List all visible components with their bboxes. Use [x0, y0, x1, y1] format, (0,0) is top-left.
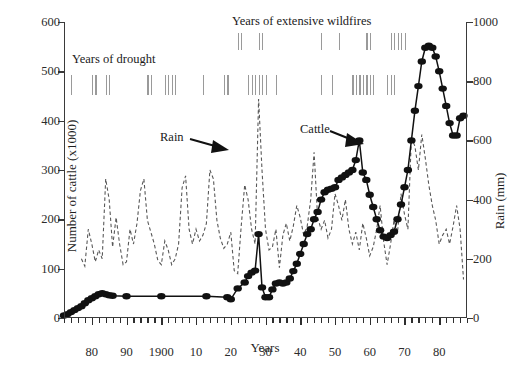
drought-year-mark [151, 75, 152, 95]
drought-year-mark [356, 75, 357, 95]
drought-year-mark [373, 75, 374, 95]
drought-year-mark [259, 75, 260, 95]
drought-year-mark [352, 75, 353, 95]
drought-year-mark [262, 75, 263, 95]
wildfire-label: Years of extensive wildfires [232, 14, 371, 29]
drought-year-mark [321, 75, 322, 95]
drought-year-mark [252, 75, 253, 95]
drought-year-mark [391, 75, 392, 95]
wildfire-year-mark [394, 33, 395, 50]
drought-year-mark [366, 75, 367, 95]
wildfire-year-mark [321, 33, 322, 50]
drought-year-mark [175, 75, 176, 95]
wildfire-year-mark [259, 33, 260, 50]
drought-year-mark [106, 75, 107, 95]
drought-year-mark [203, 75, 204, 95]
drought-year-mark [95, 75, 96, 95]
drought-year-mark [224, 75, 225, 95]
drought-year-mark [71, 75, 72, 95]
wildfire-year-mark [366, 33, 367, 50]
wildfire-year-mark [398, 33, 399, 50]
wildfire-year-mark [391, 33, 392, 50]
rain-label: Rain [160, 130, 184, 145]
chart-figure: Number of cattle (x1000) Rain (mm) Years… [0, 0, 531, 372]
drought-year-mark [109, 75, 110, 95]
drought-year-mark [168, 75, 169, 95]
wildfire-year-mark [241, 33, 242, 50]
drought-year-mark [172, 75, 173, 95]
drought-year-mark [394, 75, 395, 95]
wildfire-year-mark [370, 33, 371, 50]
drought-year-mark [332, 75, 333, 95]
wildfire-year-mark [339, 33, 340, 50]
cattle-label: Cattle [300, 122, 330, 137]
drought-year-mark [370, 75, 371, 95]
drought-year-mark [363, 75, 364, 95]
wildfire-year-mark [405, 33, 406, 50]
drought-year-mark [266, 75, 267, 95]
drought-year-mark [276, 75, 277, 95]
drought-label: Years of drought [72, 52, 155, 67]
wildfire-year-mark [401, 33, 402, 50]
drought-year-mark [92, 75, 93, 95]
drought-year-mark [227, 75, 228, 95]
drought-year-mark [387, 75, 388, 95]
wildfire-year-mark [262, 33, 263, 50]
drought-year-mark [255, 75, 256, 95]
drought-year-mark [147, 75, 148, 95]
drought-year-mark [248, 75, 249, 95]
drought-year-mark [165, 75, 166, 95]
drought-year-mark [359, 75, 360, 95]
wildfire-year-mark [238, 33, 239, 50]
